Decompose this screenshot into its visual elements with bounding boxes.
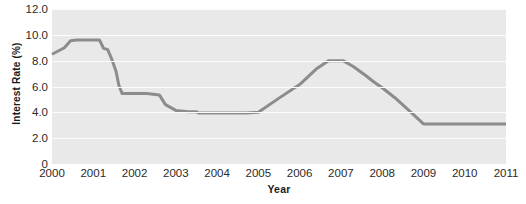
y-tick-label: 6.0: [14, 81, 48, 93]
x-axis-tick-labels: 2000200120022003200420052006200720082009…: [52, 167, 506, 183]
x-tick-label: 2006: [287, 167, 313, 179]
x-axis-title: Year: [52, 183, 506, 195]
y-tick-label: 8.0: [14, 55, 48, 67]
gridline: [52, 35, 506, 36]
y-tick-label: 10.0: [14, 29, 48, 41]
gridline: [52, 138, 506, 139]
x-tick-label: 2000: [39, 167, 65, 179]
gridline: [52, 61, 506, 62]
gridline: [52, 87, 506, 88]
interest-rate-line-chart: Interest Rate (%) 12.010.08.06.04.02.00 …: [0, 0, 526, 204]
y-tick-label: 4.0: [14, 106, 48, 118]
plot-area: [52, 9, 506, 164]
x-tick-label: 2007: [328, 167, 354, 179]
x-tick-label: 2011: [494, 167, 519, 179]
gridline: [52, 112, 506, 113]
y-tick-label: 12.0: [14, 3, 48, 15]
x-tick-label: 2005: [246, 167, 272, 179]
x-tick-label: 2010: [452, 167, 478, 179]
x-tick-label: 2003: [163, 167, 189, 179]
x-tick-label: 2008: [369, 167, 395, 179]
gridline: [52, 9, 506, 10]
x-tick-label: 2004: [204, 167, 230, 179]
y-tick-label: 2.0: [14, 132, 48, 144]
x-tick-label: 2009: [411, 167, 437, 179]
x-tick-label: 2002: [122, 167, 148, 179]
x-tick-label: 2001: [80, 167, 106, 179]
